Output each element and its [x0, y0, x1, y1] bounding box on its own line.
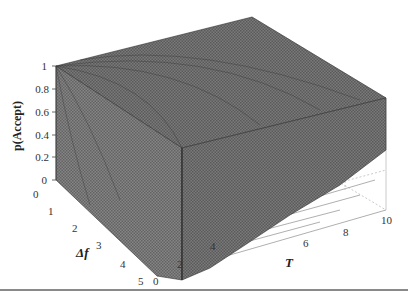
- t-tick: 6: [303, 237, 309, 249]
- t-tick: 8: [343, 226, 349, 238]
- df-tick: 2: [72, 222, 78, 234]
- z-tick: 0.8: [35, 83, 49, 95]
- df-tick: 0: [33, 188, 39, 200]
- df-tick: 5: [138, 275, 144, 287]
- df-tick: 3: [96, 239, 102, 251]
- t-tick: 4: [210, 240, 216, 252]
- z-tick: 0: [42, 174, 48, 186]
- z-tick-labels: 1 0.8 0.6 0.4 0.2 0: [35, 60, 49, 186]
- t-tick: 0: [153, 275, 159, 287]
- df-axis-label: Δf: [75, 245, 90, 260]
- z-tick: 0.6: [35, 106, 49, 118]
- z-tick: 0.4: [35, 129, 49, 141]
- z-axis-label: p(Accept): [10, 101, 24, 151]
- df-tick: 4: [120, 258, 126, 270]
- t-tick: 10: [381, 214, 393, 226]
- t-axis-label: T: [285, 255, 294, 270]
- surface-plot: 1 0.8 0.6 0.4 0.2 0 p(Accept) 0 1 2 3 4 …: [0, 0, 408, 296]
- z-tick: 0.2: [35, 151, 49, 163]
- t-tick: 2: [177, 258, 183, 270]
- horizontal-rule: [0, 289, 408, 291]
- z-tick: 1: [42, 60, 48, 72]
- z-axis-ticks: [52, 66, 56, 180]
- df-tick: 1: [48, 205, 54, 217]
